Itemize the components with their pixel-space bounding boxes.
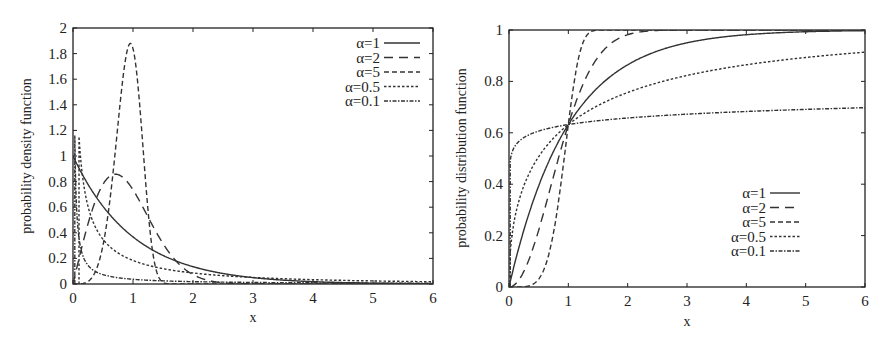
cdf-y-axis-title: probability distribution function <box>454 68 469 248</box>
x-tick-label: 5 <box>802 293 810 309</box>
y-tick-label: 2 <box>60 20 68 36</box>
cdf-chart: 012345600.20.40.60.81 α=1α=2α=5α=0.5α=0.… <box>454 22 869 329</box>
cdf-curves <box>509 30 865 287</box>
pdf-y-axis-title: probability density function <box>19 78 34 234</box>
pdf-chart: 012345600.20.40.60.811.21.41.61.82 α=1α=… <box>19 20 437 325</box>
y-tick-label: 0.2 <box>484 228 503 244</box>
y-tick-label: 0.4 <box>484 176 503 192</box>
y-tick-label: 1 <box>496 22 504 38</box>
y-tick-label: 0.8 <box>484 73 503 89</box>
x-tick-label: 5 <box>369 290 377 306</box>
x-tick-label: 0 <box>505 293 513 309</box>
y-tick-label: 0.2 <box>48 250 67 266</box>
y-tick-label: 1.4 <box>48 97 67 113</box>
figure-stage: 012345600.20.40.60.811.21.41.61.82 α=1α=… <box>0 0 893 347</box>
x-tick-label: 0 <box>69 290 77 306</box>
cdf-legend: α=1α=2α=5α=0.5α=0.1 <box>731 185 800 259</box>
x-tick-label: 1 <box>565 293 573 309</box>
y-tick-label: 0.6 <box>48 199 67 215</box>
x-tick-label: 2 <box>189 290 197 306</box>
y-tick-label: 1.8 <box>48 46 67 62</box>
legend-label: α=0.1 <box>345 93 380 109</box>
cdf-x-axis-title: x <box>684 314 691 329</box>
cdf-axes: 012345600.20.40.60.81 <box>484 22 869 309</box>
curve-alpha-0_1 <box>75 135 433 284</box>
y-tick-label: 1.2 <box>48 122 67 138</box>
y-tick-label: 0.6 <box>484 125 503 141</box>
y-tick-label: 0.8 <box>48 174 67 190</box>
x-tick-label: 6 <box>861 293 869 309</box>
curve-alpha-1 <box>73 156 433 284</box>
y-tick-label: 0 <box>60 276 68 292</box>
curve-alpha-2 <box>73 174 433 284</box>
x-tick-label: 2 <box>624 293 632 309</box>
curve-alpha-1 <box>509 31 865 287</box>
curve-alpha-2 <box>509 30 865 287</box>
x-tick-label: 6 <box>429 290 437 306</box>
plot-frame <box>509 30 865 287</box>
curve-alpha-0_5 <box>79 137 433 285</box>
y-tick-label: 1.6 <box>48 71 67 87</box>
legend-label: α=0.1 <box>731 243 766 259</box>
y-tick-label: 0.4 <box>48 225 67 241</box>
pdf-x-axis-title: x <box>250 310 257 325</box>
x-tick-label: 3 <box>683 293 691 309</box>
curve-alpha-5 <box>509 30 865 287</box>
x-tick-label: 4 <box>309 290 317 306</box>
curve-alpha-0_1 <box>510 108 865 287</box>
x-tick-label: 1 <box>129 290 137 306</box>
x-tick-label: 4 <box>743 293 751 309</box>
y-tick-label: 0 <box>496 279 504 295</box>
pdf-legend: α=1α=2α=5α=0.5α=0.1 <box>345 35 420 109</box>
y-tick-label: 1 <box>60 148 68 164</box>
x-tick-label: 3 <box>249 290 257 306</box>
